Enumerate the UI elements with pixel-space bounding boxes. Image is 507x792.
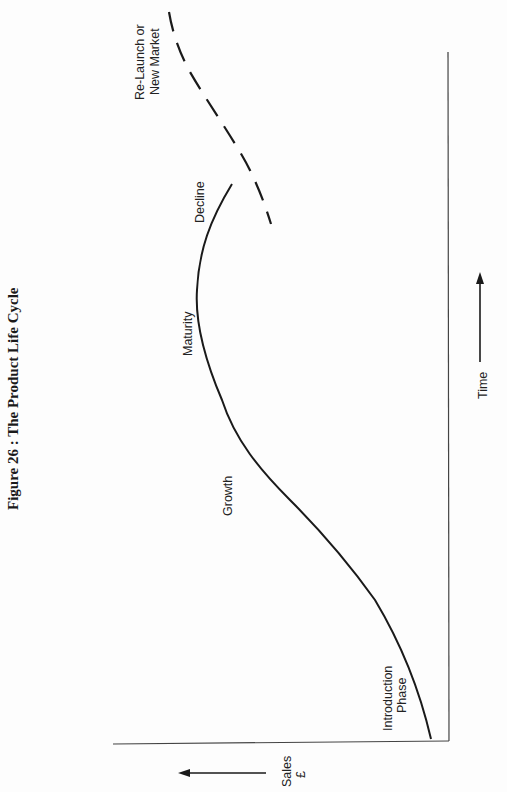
time-axis [448, 52, 449, 741]
sales-axis [113, 741, 449, 744]
growth-label: Growth [221, 476, 235, 516]
decline-label: Decline [193, 181, 207, 223]
new-market-label: New Market [148, 28, 162, 95]
time-axis-label: Time [476, 372, 490, 399]
relaunch-curve [169, 12, 271, 224]
sales-axis-label: Sales [280, 756, 294, 787]
product-life-cycle-diagram: Figure 26 : The Product Life Cycle Intro… [0, 0, 507, 792]
life-cycle-curve [197, 184, 431, 739]
sales-arrowhead-icon [178, 769, 190, 777]
figure-title: Figure 26 : The Product Life Cycle [5, 287, 21, 510]
phase-label: Phase [395, 678, 409, 713]
maturity-label: Maturity [181, 311, 195, 356]
relaunch-label: Re-Launch or [133, 24, 147, 100]
sales-currency-label: £ [294, 771, 308, 778]
time-arrowhead-icon [476, 272, 484, 284]
introduction-label: Introduction [381, 666, 395, 731]
figure-page: Figure 26 : The Product Life Cycle Intro… [0, 0, 507, 792]
